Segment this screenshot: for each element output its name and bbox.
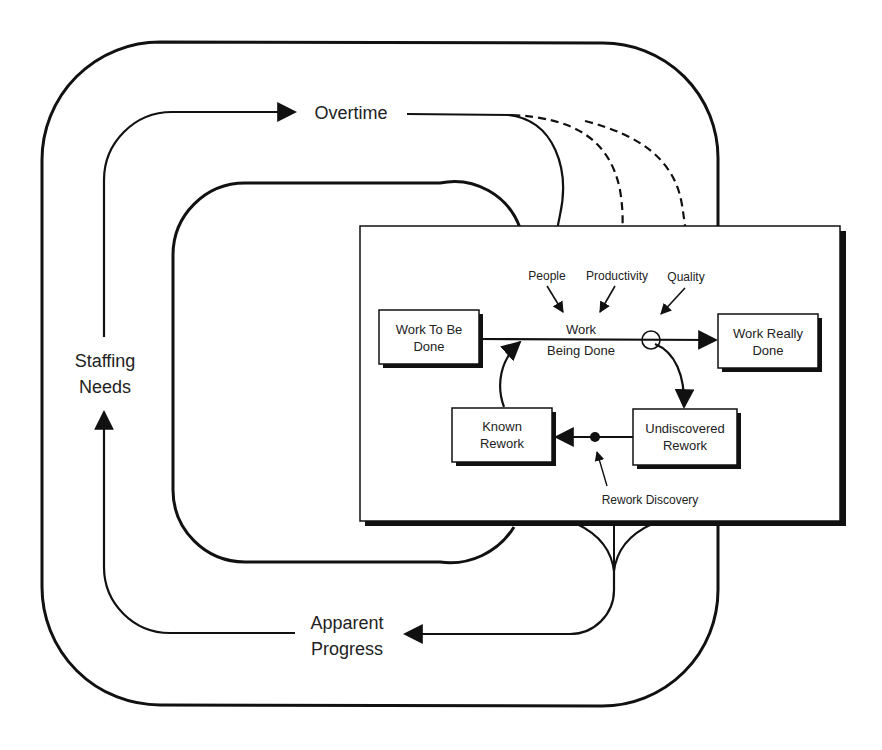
progress-junction-left: [577, 524, 614, 572]
staffing-to-overtime-arrow: [104, 112, 295, 337]
work-really-done-line2: Done: [752, 343, 783, 358]
work-to-progress-arrow: [405, 572, 614, 634]
staffing-needs-label-line1: Staffing: [75, 351, 136, 371]
undiscovered-rework-line2: Rework: [663, 438, 708, 453]
apparent-progress-label-line1: Apparent: [310, 613, 383, 633]
overtime-label: Overtime: [314, 103, 387, 123]
quality-label: Quality: [667, 270, 704, 284]
work-flow-arrow: [479, 339, 716, 340]
stock-known-rework: Known Rework: [452, 408, 556, 466]
people-label: People: [528, 269, 566, 283]
work-really-done-line1: Work Really: [733, 326, 803, 341]
rework-discovery-label: Rework Discovery: [602, 493, 699, 507]
work-to-be-done-line2: Done: [413, 339, 444, 354]
stock-undiscovered-rework: Undiscovered Rework: [633, 409, 741, 469]
known-rework-line2: Rework: [480, 436, 525, 451]
undiscovered-rework-line1: Undiscovered: [645, 421, 725, 436]
stock-work-to-be-done: Work To Be Done: [379, 310, 483, 368]
known-rework-line1: Known: [482, 419, 522, 434]
rework-discovery-dot-icon: [590, 432, 600, 442]
progress-junction-right: [614, 524, 652, 572]
apparent-progress-label-line2: Progress: [311, 639, 383, 659]
stock-work-really-done: Work Really Done: [718, 314, 822, 372]
progress-to-staffing-arrow: [104, 412, 295, 633]
productivity-label: Productivity: [586, 269, 648, 283]
work-being-done-line1: Work: [566, 322, 597, 337]
work-to-be-done-line1: Work To Be: [396, 322, 463, 337]
staffing-needs-label-line2: Needs: [79, 377, 131, 397]
work-being-done-line2: Being Done: [547, 343, 615, 358]
overtime-line: [407, 114, 512, 115]
rework-cycle-diagram: Overtime Staffing Needs Apparent Progres…: [0, 0, 882, 750]
